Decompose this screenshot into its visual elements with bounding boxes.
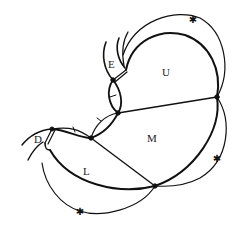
stomach-diagram: ✱ ✱ ✱ E U M L D: [0, 0, 243, 230]
star-marker-right: ✱: [213, 153, 221, 164]
star-markers: ✱ ✱ ✱: [0, 0, 243, 230]
star-marker-top: ✱: [189, 14, 197, 25]
star-marker-bottom: ✱: [76, 206, 84, 217]
region-label-l: L: [83, 166, 90, 177]
region-label-d: D: [34, 134, 42, 145]
region-label-m: M: [147, 133, 157, 144]
region-label-u: U: [162, 67, 170, 78]
region-label-e: E: [108, 59, 115, 70]
